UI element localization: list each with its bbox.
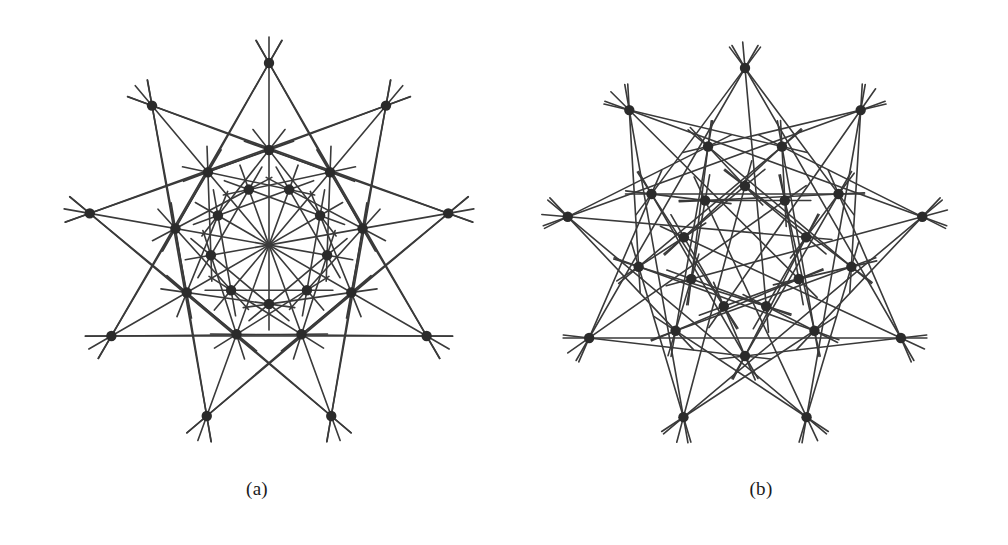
configuration-diagram-a (0, 0, 504, 505)
configuration-vertex (147, 100, 157, 110)
configuration-vertex (315, 210, 325, 220)
configuration-vertex (202, 411, 212, 421)
configuration-vertex (740, 63, 750, 73)
configuration-vertex (793, 274, 803, 284)
configuration-vertex (203, 167, 213, 177)
configuration-vertex (801, 232, 811, 242)
figure-plate: (a) (b) (0, 0, 1008, 545)
configuration-vertex (325, 167, 335, 177)
configuration-vertex (703, 141, 713, 151)
configuration-vertex (170, 223, 180, 233)
configuration-vertex (226, 285, 236, 295)
configuration-vertex (326, 411, 336, 421)
configuration-vertex (719, 301, 729, 311)
configuration-vertex (264, 58, 274, 68)
panel-a-caption: (a) (0, 478, 504, 500)
configuration-vertex (264, 145, 274, 155)
figure-panel-b: (b) (504, 0, 1008, 545)
configuration-vertex (740, 181, 750, 191)
configuration-vertex (584, 333, 594, 343)
configuration-vertex (421, 331, 431, 341)
configuration-line (802, 85, 865, 443)
configuration-vertex (284, 184, 294, 194)
configuration-diagram-b (504, 0, 1008, 505)
configuration-vertex (700, 195, 710, 205)
configuration-vertex (679, 232, 689, 242)
configuration-vertex (917, 212, 927, 222)
configuration-vertex (801, 412, 811, 422)
configuration-line (202, 130, 285, 237)
configuration-vertex (231, 329, 241, 339)
configuration-line (253, 130, 336, 237)
configuration-vertex (846, 262, 856, 272)
configuration-vertex (206, 250, 216, 260)
configuration-vertex (686, 274, 696, 284)
configuration-vertex (381, 100, 391, 110)
configuration-line (147, 80, 191, 318)
configuration-lines (542, 42, 948, 443)
configuration-vertex (809, 326, 819, 336)
configuration-vertex (322, 250, 332, 260)
configuration-vertex (85, 208, 95, 218)
configuration-vertex (780, 195, 790, 205)
configuration-vertex (740, 351, 750, 361)
configuration-vertex (244, 184, 254, 194)
configuration-lines (64, 37, 474, 442)
configuration-line (244, 141, 472, 222)
configuration-vertex (563, 212, 573, 222)
configuration-vertex (357, 223, 367, 233)
configuration-vertex (833, 189, 843, 199)
configuration-vertex (670, 326, 680, 336)
configuration-line (828, 170, 911, 362)
configuration-vertex (777, 141, 787, 151)
configuration-vertex (443, 208, 453, 218)
configuration-vertices (563, 63, 928, 423)
configuration-line (187, 276, 371, 433)
figure-panel-a: (a) (0, 0, 504, 545)
configuration-vertex (346, 287, 356, 297)
configuration-vertex (264, 299, 274, 309)
configuration-vertex (302, 285, 312, 295)
panel-b-caption: (b) (504, 478, 1008, 500)
configuration-vertex (761, 301, 771, 311)
configuration-line (568, 186, 806, 353)
configuration-line (135, 86, 323, 310)
configuration-line (579, 170, 662, 362)
configuration-line (625, 85, 688, 443)
configuration-vertex (896, 333, 906, 343)
configuration-vertex (678, 412, 688, 422)
configuration-vertex (182, 287, 192, 297)
configuration-vertex (633, 262, 643, 272)
configuration-vertex (213, 210, 223, 220)
configuration-vertex (106, 331, 116, 341)
configuration-vertex (624, 105, 634, 115)
configuration-vertex (856, 105, 866, 115)
configuration-line (626, 191, 731, 204)
configuration-vertex (296, 329, 306, 339)
configuration-line (214, 86, 402, 310)
configuration-vertex (646, 189, 656, 199)
